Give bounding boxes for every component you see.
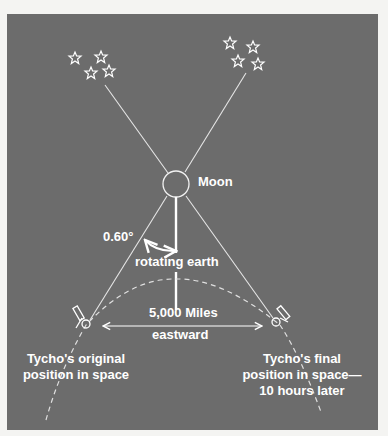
left-star-cluster (69, 51, 115, 79)
left-telescope (73, 306, 90, 328)
distance-label: 5,000 Miles (149, 305, 218, 321)
original-position-label: Tycho's original position in space (20, 351, 132, 383)
final-line-1: Tycho's final (240, 351, 364, 367)
original-line-2: position in space (20, 367, 132, 383)
final-line-3: 10 hours later (240, 383, 364, 399)
rotating-earth-label: rotating earth (135, 254, 219, 270)
angle-label: 0.60° (103, 229, 134, 245)
right-telescope (272, 306, 290, 326)
eastward-label: eastward (152, 327, 208, 343)
right-star-cluster (224, 37, 264, 70)
moon-circle (163, 171, 189, 197)
final-line-2: position in space— (240, 367, 364, 383)
original-line-1: Tycho's original (20, 351, 132, 367)
moon-label: Moon (198, 174, 233, 190)
sightline-upper-right (185, 73, 246, 172)
final-position-label: Tycho's final position in space— 10 hour… (240, 351, 364, 399)
sightline-upper-left (105, 85, 168, 173)
angle-arc (145, 240, 176, 251)
